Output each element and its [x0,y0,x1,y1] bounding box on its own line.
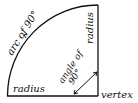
arc-label: arc of 90° [4,9,40,57]
radius-horizontal-label: radius [13,83,45,94]
quarter-circle-diagram: arc of 90° radius radius angle of 90° ve… [0,0,138,103]
radius-vertical-label: radius [84,12,95,44]
vertex-label: vertex [101,89,133,100]
